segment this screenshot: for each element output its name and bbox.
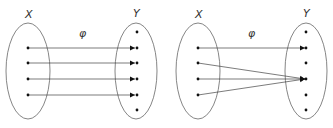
domain-points <box>197 47 200 97</box>
diagram-injective: X Y φ <box>6 7 157 119</box>
codomain-points <box>136 31 139 112</box>
map-label: φ <box>248 27 256 40</box>
domain-points <box>27 47 30 97</box>
set-x-ellipse <box>6 23 50 119</box>
map-label: φ <box>79 27 87 40</box>
codomain-points <box>305 31 308 112</box>
set-x-ellipse <box>176 23 220 119</box>
mapping-diagrams: X Y φ X Y φ <box>0 0 333 128</box>
diagram-non-injective: X Y φ <box>176 7 327 119</box>
arrows <box>198 48 305 95</box>
set-x-label: X <box>24 8 33 21</box>
set-y-ellipse <box>115 23 157 119</box>
set-y-label: Y <box>303 7 311 20</box>
arrows <box>28 48 135 95</box>
set-y-ellipse <box>285 23 327 119</box>
set-x-label: X <box>194 8 203 21</box>
set-y-label: Y <box>133 7 141 20</box>
